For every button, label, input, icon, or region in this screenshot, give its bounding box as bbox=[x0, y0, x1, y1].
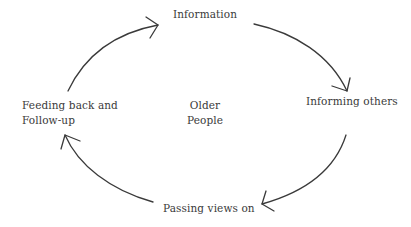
center-label-line-1: Older bbox=[180, 98, 230, 113]
node-information: Information bbox=[173, 7, 237, 22]
node-feeding-back-line-1: Feeding back and bbox=[22, 98, 118, 113]
center-label: Older People bbox=[180, 98, 230, 128]
node-informing-others: Informing others bbox=[306, 94, 398, 109]
center-label-line-2: People bbox=[180, 113, 230, 128]
arrow-passing-views-to-feedback bbox=[61, 135, 153, 202]
node-feeding-back-line-2: Follow-up bbox=[22, 113, 118, 128]
node-feeding-back: Feeding back and Follow-up bbox=[22, 98, 118, 128]
arrow-feedback-to-information bbox=[68, 17, 158, 91]
arrow-information-to-informing-others bbox=[254, 24, 350, 91]
cycle-diagram: Information Informing others Passing vie… bbox=[0, 0, 411, 227]
node-passing-views-on: Passing views on bbox=[163, 201, 255, 216]
arrow-informing-others-to-passing-views bbox=[262, 135, 346, 211]
